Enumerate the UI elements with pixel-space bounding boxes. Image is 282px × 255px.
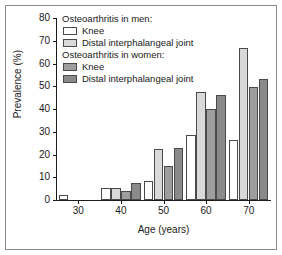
bar [249,87,259,200]
legend-label-men-knee: Knee [82,25,104,37]
legend-heading-men: Osteoarthritis in men: [62,13,262,25]
y-tick-label: 50 [39,79,50,92]
x-tick-label: 70 [243,205,254,217]
y-tick-label: 40 [39,102,50,115]
x-tick-label: 60 [201,205,212,217]
x-tick-mark [121,200,122,204]
legend-item-men-knee: Knee [63,25,262,37]
x-tick-mark [78,200,79,204]
y-axis-title: Prevalence (%) [12,0,23,50]
y-tick-label: 60 [39,57,50,70]
y-tick-label: 10 [39,170,50,183]
x-tick-label: 50 [158,205,169,217]
y-tick-label: 80 [39,11,50,24]
y-tick-label: 20 [39,148,50,161]
legend-swatch-women-knee-icon [63,63,77,71]
legend-item-men-dip: Distal interphalangeal joint [63,37,262,49]
x-tick-mark [249,200,250,204]
legend-swatch-men-knee-icon [63,27,77,35]
legend-swatch-women-dip-icon [63,75,77,83]
x-tick-mark [206,200,207,204]
bar [259,79,269,200]
legend-label-women-knee: Knee [82,61,104,73]
y-tick-label: 70 [39,34,50,47]
chart-legend: Osteoarthritis in men: Knee Distal inter… [62,13,262,85]
chart-figure: Prevalence (%) 01020304050607080 3040506… [0,0,282,255]
x-axis-title: Age (years) [57,224,270,235]
legend-heading-women: Osteoarthritis in women: [62,49,262,61]
y-tick-label: 30 [39,125,50,138]
x-tick-mark [164,200,165,204]
legend-item-women-knee: Knee [63,61,262,73]
legend-swatch-men-dip-icon [63,39,77,47]
legend-label-women-dip: Distal interphalangeal joint [82,73,193,85]
x-tick-label: 30 [73,205,84,217]
bar [229,140,239,200]
y-tick-label: 0 [44,193,50,206]
legend-item-women-dip: Distal interphalangeal joint [63,73,262,85]
legend-label-men-dip: Distal interphalangeal joint [82,37,193,49]
y-tick-mark [53,200,57,201]
x-tick-label: 40 [115,205,126,217]
y-axis-title-text: Prevalence (%) [12,50,23,118]
